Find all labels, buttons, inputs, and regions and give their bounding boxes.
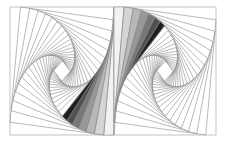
whirl-diagram <box>0 0 228 143</box>
right-panel <box>114 7 216 135</box>
left-panel <box>10 7 114 135</box>
